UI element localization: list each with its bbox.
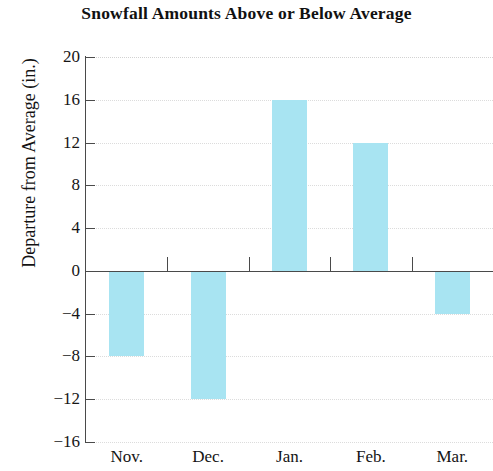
y-axis-tick <box>86 57 95 58</box>
x-axis-tick <box>167 257 168 271</box>
x-axis-tick <box>249 257 250 271</box>
y-axis-tick <box>86 143 95 144</box>
y-axis-tick <box>86 399 95 400</box>
x-axis-tick <box>330 257 331 271</box>
y-axis-tick <box>86 314 95 315</box>
y-axis-tick-label: −12 <box>26 390 80 407</box>
y-axis-tick-labels: 201612840−4−8−12−16 <box>22 0 80 471</box>
y-axis-tick <box>86 356 95 357</box>
gridline <box>86 57 493 58</box>
gridline <box>86 356 493 357</box>
y-axis-tick <box>86 100 95 101</box>
y-axis-line <box>85 56 86 443</box>
bar <box>191 271 226 399</box>
bar <box>353 143 388 271</box>
y-axis-tick-label: 8 <box>26 176 80 193</box>
bar <box>109 271 144 357</box>
y-axis-tick <box>86 228 95 229</box>
gridline <box>86 442 493 443</box>
y-axis-tick-label: 12 <box>26 134 80 151</box>
gridline <box>86 314 493 315</box>
x-axis-tick-label: Mar. <box>407 448 493 465</box>
x-axis-tick-label: Feb. <box>326 448 416 465</box>
x-axis-tick-label: Jan. <box>245 448 335 465</box>
bar <box>272 100 307 271</box>
bar <box>435 271 470 314</box>
y-axis-tick-label: 20 <box>26 48 80 65</box>
y-axis-tick-label: 16 <box>26 91 80 108</box>
y-axis-tick-label: 0 <box>26 262 80 279</box>
gridline <box>86 399 493 400</box>
y-axis-tick <box>86 442 95 443</box>
y-axis-tick-label: −16 <box>26 433 80 450</box>
y-axis-tick-label: 4 <box>26 219 80 236</box>
zero-axis-line <box>86 271 493 272</box>
x-axis-tick-label: Dec. <box>163 448 253 465</box>
y-axis-tick-label: −8 <box>26 347 80 364</box>
x-axis-tick-label: Nov. <box>82 448 172 465</box>
snowfall-bar-chart: Snowfall Amounts Above or Below Average … <box>0 0 493 471</box>
y-axis-tick <box>86 185 95 186</box>
y-axis-tick-label: −4 <box>26 305 80 322</box>
x-axis-tick <box>412 257 413 271</box>
plot-area <box>86 57 493 442</box>
